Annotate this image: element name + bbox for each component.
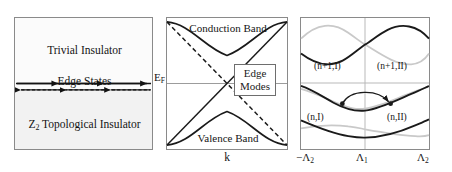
panel-interface: Trivial Insulator Edge States Z2 Topolog… xyxy=(14,17,153,150)
panel-kramers-pairs: (n+1,I) (n+1,II) (n,I) (n,II) xyxy=(300,17,430,150)
fermi-e: E xyxy=(154,71,161,83)
edge-modes-callout: Edge Modes xyxy=(234,64,276,96)
conduction-band-curve xyxy=(167,22,287,55)
topological-region-shading xyxy=(15,91,152,149)
fermi-level-label: EF xyxy=(154,72,165,85)
interface-channels-svg xyxy=(15,18,152,149)
kramers-dot-left xyxy=(340,101,345,106)
xtick-lambda2-symbol: Λ xyxy=(417,151,425,163)
xtick-lambda2-subscript: 2 xyxy=(425,156,429,165)
figure-root: Trivial Insulator Edge States Z2 Topolog… xyxy=(0,0,452,172)
xtick-lambda1-subscript: 1 xyxy=(364,156,368,165)
xtick-lambda1-symbol: Λ xyxy=(356,151,364,163)
xtick-neg-lambda2-subscript: 2 xyxy=(310,156,314,165)
kramers-dot-right xyxy=(388,101,393,106)
kramers-bands-svg xyxy=(301,18,429,149)
valence-band-curve xyxy=(167,112,287,145)
xtick-lambda2: Λ2 xyxy=(417,152,429,165)
xtick-lambda1: Λ1 xyxy=(356,152,368,165)
xtick-neg-lambda2-symbol: −Λ xyxy=(296,151,310,163)
edge-modes-line2: Modes xyxy=(240,80,270,93)
fermi-subscript: F xyxy=(161,76,165,85)
xtick-neg-lambda2: −Λ2 xyxy=(296,152,314,165)
momentum-axis-label: k xyxy=(166,152,288,164)
panel-band-structure: Conduction Band Valence Band Edge Modes xyxy=(166,17,288,150)
edge-modes-line1: Edge xyxy=(240,67,270,80)
